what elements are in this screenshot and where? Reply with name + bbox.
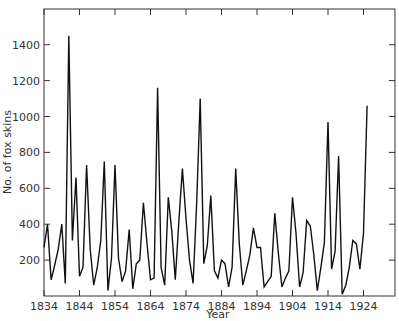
y-axis-title: No. of fox skins [1, 110, 14, 194]
data-line [44, 36, 367, 295]
y-tick-label: 200 [19, 254, 40, 267]
x-tick-label: 1864 [137, 300, 165, 313]
y-tick-label: 800 [19, 146, 40, 159]
x-axis-ticks: 1834184418541864187418841894190419141924 [30, 9, 378, 313]
y-tick-label: 1200 [12, 75, 40, 88]
x-tick-label: 1854 [101, 300, 129, 313]
x-axis-title: Year [205, 308, 230, 321]
x-tick-label: 1924 [350, 300, 378, 313]
y-tick-label: 600 [19, 182, 40, 195]
y-tick-label: 1400 [12, 39, 40, 52]
x-tick-label: 1894 [243, 300, 271, 313]
fox-skins-line-chart: 200400600800100012001400 183418441854186… [0, 0, 399, 321]
x-tick-label: 1904 [279, 300, 307, 313]
x-tick-label: 1844 [66, 300, 94, 313]
y-tick-label: 1000 [12, 111, 40, 124]
x-tick-label: 1834 [30, 300, 58, 313]
x-tick-label: 1914 [314, 300, 342, 313]
x-tick-label: 1874 [172, 300, 200, 313]
plot-frame [44, 9, 395, 296]
y-tick-label: 400 [19, 218, 40, 231]
